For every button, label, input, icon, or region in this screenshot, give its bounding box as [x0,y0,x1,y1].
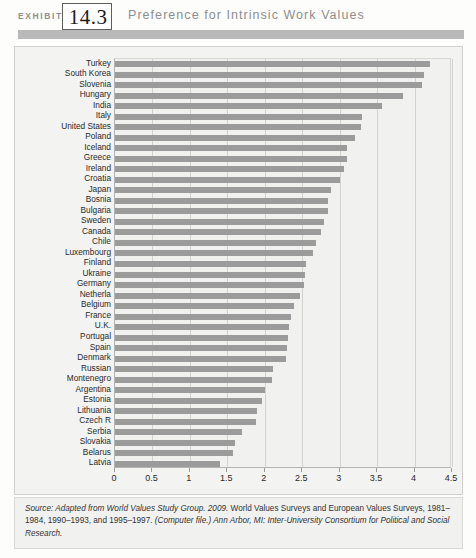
bar [115,282,304,288]
category-label: Latvia [89,458,111,467]
bar [115,219,324,225]
bar [115,408,257,414]
category-label: Slovenia [79,80,111,89]
bar [115,124,361,130]
axis-tick [414,468,415,472]
bar [115,324,289,330]
source-note: Source: Adapted from World Values Study … [14,497,463,549]
chart-container: TurkeySouth KoreaSloveniaHungaryIndiaIta… [14,46,463,495]
bar [115,187,331,193]
bar [115,440,235,446]
axis-tick [376,468,377,472]
bar [115,240,316,246]
bar [115,156,347,162]
category-label: Finland [84,258,111,267]
axis-tick [114,468,115,472]
category-label: Hungary [80,90,111,99]
category-label: Russian [81,364,111,373]
bar [115,461,220,467]
category-label: Turkey [86,59,111,68]
bar [115,82,422,88]
category-label: Canada [82,227,111,236]
bar [115,366,273,372]
category-label: Portugal [80,332,111,341]
bar [115,429,242,435]
bar [115,166,344,172]
axis-tick-label: 2 [261,473,266,483]
category-label: South Korea [65,69,111,78]
source-label: Source: [25,504,53,513]
category-label: India [93,101,111,110]
category-label: Ireland [86,164,111,173]
axis-tick-label: 4 [411,473,416,483]
category-label: Chile [92,237,111,246]
category-label: Lithuania [77,406,111,415]
plot-area [114,58,451,468]
category-label: Belgium [81,300,111,309]
category-label: Serbia [87,427,111,436]
category-label: Argentina [75,385,111,394]
bar [115,314,291,320]
gridline [452,59,453,467]
source-part-1: Adapted from World Values Study Group. 2… [53,504,228,513]
exhibit-number-box: 14.3 [62,3,112,30]
value-axis: 00.511.522.533.544.5 [114,468,452,492]
gridline [377,59,378,467]
axis-tick [226,468,227,472]
bar [115,93,403,99]
bar [115,377,272,383]
category-label: Italy [96,111,111,120]
category-label: United States [61,122,111,131]
category-label: Iceland [84,143,111,152]
axis-tick-label: 1.5 [220,473,233,483]
category-label: Bosnia [86,195,111,204]
gridline [340,59,341,467]
axis-tick-label: 2.5 [295,473,308,483]
axis-tick-label: 4.5 [445,473,458,483]
category-label: Czech R [79,416,111,425]
bar [115,345,287,351]
category-label: Sweden [81,216,111,225]
bar [115,398,262,404]
axis-tick [339,468,340,472]
bar [115,293,300,299]
category-axis-labels: TurkeySouth KoreaSloveniaHungaryIndiaIta… [15,58,111,468]
bar [115,103,382,109]
axis-tick [264,468,265,472]
axis-tick [189,468,190,472]
category-label: France [85,311,111,320]
exhibit-header: EXHIBIT 14.3 Preference for Intrinsic Wo… [0,0,476,46]
bar [115,356,286,362]
axis-tick-label: 3.5 [370,473,383,483]
bar [115,72,424,78]
bar [115,419,256,425]
category-label: Belarus [83,448,111,457]
bar [115,387,265,393]
page-title: Preference for Intrinsic Work Values [128,8,365,22]
bar [115,145,347,151]
category-label: Croatia [84,174,111,183]
category-label: Germany [77,279,111,288]
category-label: Ukraine [82,269,111,278]
exhibit-page: EXHIBIT 14.3 Preference for Intrinsic Wo… [0,0,476,558]
axis-tick [451,468,452,472]
exhibit-number: 14.3 [63,4,113,31]
category-label: Estonia [83,395,111,404]
axis-tick-label: 0.5 [145,473,158,483]
bar [115,114,362,120]
gridline [415,59,416,467]
category-label: Netherla [80,290,111,299]
category-label: U.K. [95,321,111,330]
category-label: Poland [85,132,111,141]
axis-tick [301,468,302,472]
axis-tick-label: 1 [186,473,191,483]
category-label: Japan [88,185,111,194]
bar [115,335,288,341]
bar [115,208,328,214]
axis-tick-label: 0 [111,473,116,483]
category-label: Spain [90,343,111,352]
bar [115,229,321,235]
category-label: Slovakia [80,437,111,446]
bar [115,198,328,204]
bar [115,250,313,256]
